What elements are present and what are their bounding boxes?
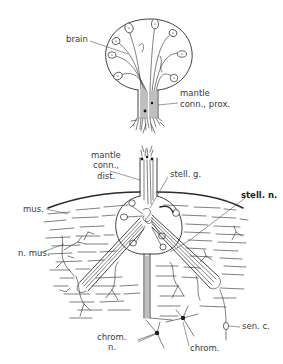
label-mantle-conn-dist-line1: mantle (91, 150, 121, 160)
label-mantle-conn-prox-line2: conn., prox. (180, 99, 230, 109)
label-chrom: chrom. (190, 343, 220, 353)
label-stell-n: stell. n. (241, 190, 277, 200)
label-mantle-conn-dist-line2: conn., (93, 160, 119, 170)
label-chrom-n-line1: chrom. (97, 332, 127, 342)
cut-end-proximal (130, 118, 164, 133)
brain-structure (106, 19, 193, 133)
label-chrom-n-line2: n. (108, 342, 116, 352)
label-sen-c: sen. c. (242, 321, 270, 331)
label-mus: mus. (23, 204, 44, 214)
label-stell-g: stell. g. (170, 169, 201, 179)
diagram-figure (0, 0, 283, 364)
label-brain: brain (66, 34, 88, 44)
label-mantle-conn-dist-line3: dist. (97, 171, 115, 181)
label-n-mus: n. mus. (18, 248, 50, 258)
label-mantle-conn-prox-line1: mantle (180, 88, 210, 98)
